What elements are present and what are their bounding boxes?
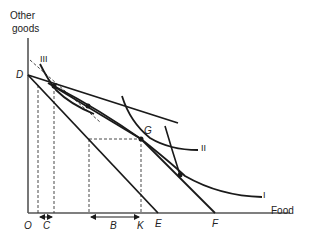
marker-label-C: C (43, 221, 50, 231)
point-label-D: D (16, 70, 23, 80)
point-tangent-III (52, 84, 57, 89)
point-label-F: F (212, 219, 218, 229)
point-tangent-II (86, 104, 91, 109)
indifference-curve-II (122, 96, 198, 150)
diagram-canvas (0, 0, 316, 239)
point-label-E: E (155, 219, 162, 229)
y-axis-label-line1: Other (10, 11, 35, 21)
origin-label: O (24, 221, 32, 231)
curve-label-II: II (201, 144, 206, 153)
marker-label-K: K (137, 221, 144, 231)
curve-label-I: I (263, 191, 266, 200)
point-label-G: G (144, 126, 152, 136)
indifference-curve-I-upper (165, 126, 180, 175)
point-G (139, 137, 144, 142)
x-axis-label: Food (271, 206, 294, 216)
point-tangent-I (178, 173, 183, 178)
marker-label-B: B (110, 221, 117, 231)
curve-label-III: III (40, 55, 48, 64)
y-axis-label-line2: goods (12, 24, 39, 34)
